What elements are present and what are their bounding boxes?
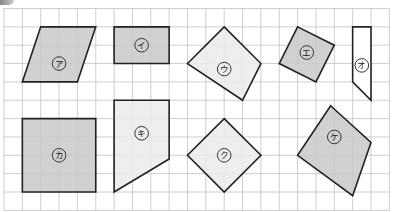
shape-o: オ [353, 27, 371, 100]
shape-label: カ [55, 150, 64, 160]
shape-label: ア [55, 59, 64, 69]
shape-label: オ [357, 60, 366, 70]
shape-ke: ケ [298, 106, 371, 196]
shape-e: エ [279, 27, 334, 82]
shape-label: ケ [330, 132, 339, 142]
shape-label: ウ [220, 64, 229, 74]
shape-ku: ク [188, 119, 261, 192]
shape-label: エ [302, 48, 311, 58]
shape-ka: カ [22, 119, 95, 192]
grid-figure: アイウエオカキクケ [0, 0, 395, 212]
shape-ki: キ [114, 100, 169, 192]
shape-outline [298, 106, 371, 196]
shape-outline [22, 27, 95, 82]
shape-label: ク [220, 150, 229, 160]
shape-a: ア [22, 27, 95, 82]
shape-label: キ [137, 128, 146, 138]
shape-outline [114, 100, 169, 192]
shape-i: イ [114, 27, 169, 64]
shapes: アイウエオカキクケ [22, 27, 371, 196]
shape-label: イ [137, 40, 146, 50]
